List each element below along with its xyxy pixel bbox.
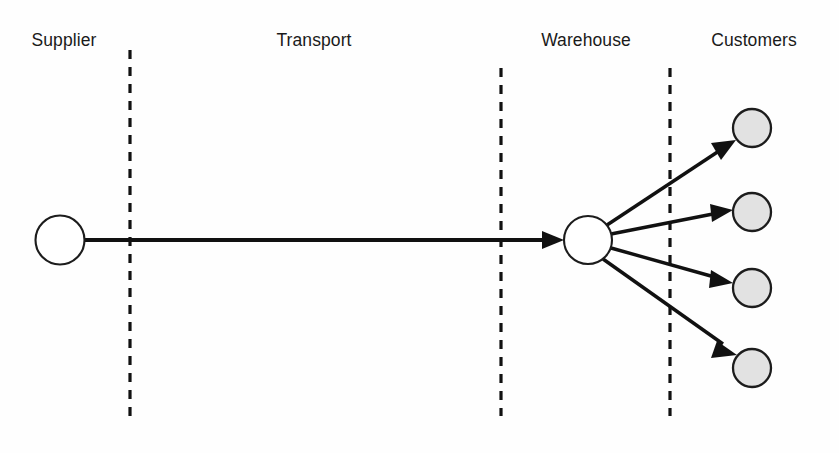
stage-label-warehouse: Warehouse: [541, 30, 631, 50]
flow-branch-2-line: [611, 213, 718, 234]
customer-node-4[interactable]: [733, 349, 771, 387]
customer-node-3[interactable]: [733, 269, 771, 307]
flow-branch-2-arrowhead: [710, 204, 733, 222]
supplier-node[interactable]: [36, 216, 85, 265]
flow-main-arrowhead: [542, 231, 564, 249]
flow-branch-4-line: [603, 259, 723, 344]
customer-node-1[interactable]: [733, 109, 771, 147]
flow-branch-3-arrowhead: [709, 270, 733, 288]
flow-branch-1-line: [607, 149, 722, 225]
stage-label-group: Supplier Transport Warehouse Customers: [31, 30, 796, 50]
supply-chain-diagram: Supplier Transport Warehouse Customers: [0, 0, 839, 453]
flow-supplier-to-warehouse: [85, 231, 564, 249]
diagram-canvas: Supplier Transport Warehouse Customers: [0, 0, 839, 453]
stage-label-transport: Transport: [276, 30, 351, 50]
flow-branch-4-arrowhead: [711, 341, 737, 358]
flow-branch-3-line: [611, 248, 718, 278]
warehouse-node[interactable]: [564, 216, 612, 264]
flow-branch-1-arrowhead: [711, 140, 736, 160]
flow-warehouse-to-customer-3: [611, 248, 733, 288]
node-group: [36, 109, 772, 387]
stage-label-customers: Customers: [711, 30, 797, 50]
customer-node-2[interactable]: [733, 193, 771, 231]
stage-label-supplier: Supplier: [31, 30, 96, 50]
